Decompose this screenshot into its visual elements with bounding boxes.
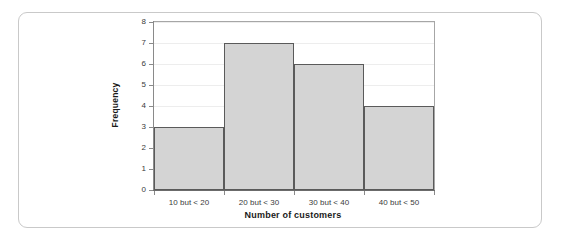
y-axis-tick-label: 1 <box>142 165 146 173</box>
y-axis-tick-label: 7 <box>142 39 146 47</box>
y-axis-tick-label: 8 <box>142 18 146 26</box>
y-axis-tick-label: 4 <box>142 102 146 110</box>
plot-area: 012345678 10 but < 2020 but < 3030 but <… <box>153 21 435 191</box>
x-axis-tick-label: 30 but < 40 <box>309 199 349 207</box>
x-axis-line <box>153 190 435 191</box>
y-axis-tick-label: 6 <box>142 60 146 68</box>
gridline <box>154 22 434 23</box>
histogram-bar <box>294 64 364 190</box>
y-axis-tick-label: 3 <box>142 123 146 131</box>
x-axis-tick-label: 10 but < 20 <box>169 199 209 207</box>
x-axis-tick-mark <box>224 191 225 195</box>
y-axis-line <box>153 21 154 191</box>
x-axis-tick-mark <box>434 191 435 195</box>
x-axis-tick-mark <box>294 191 295 195</box>
y-axis-title: Frequency <box>110 83 120 128</box>
x-axis-tick-label: 20 but < 30 <box>239 199 279 207</box>
x-axis-tick-mark <box>154 191 155 195</box>
x-axis-title: Number of customers <box>245 210 342 220</box>
histogram-bar <box>224 43 294 190</box>
x-axis-tick-label: 40 but < 50 <box>379 199 419 207</box>
histogram-bar <box>154 127 224 190</box>
histogram-bar <box>364 106 434 190</box>
x-axis-tick-mark <box>364 191 365 195</box>
histogram-chart: Frequency 012345678 10 but < 2020 but < … <box>19 13 543 229</box>
y-axis-tick-label: 0 <box>142 186 146 194</box>
y-axis-tick-label: 2 <box>142 144 146 152</box>
y-axis-tick-label: 5 <box>142 81 146 89</box>
gridline <box>154 43 434 44</box>
figure-card: Frequency 012345678 10 but < 2020 but < … <box>18 12 542 228</box>
